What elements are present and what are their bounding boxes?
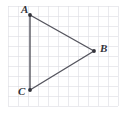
vertex-label-b: B (100, 43, 107, 54)
vertex-label-c: C (18, 86, 25, 97)
vertex-point-a (28, 13, 32, 17)
vertex-label-a: A (21, 4, 28, 15)
triangle-edge-ab (30, 15, 94, 51)
geometry-figure: A B C (0, 0, 126, 115)
figure-canvas (0, 0, 126, 115)
vertex-point-c (28, 88, 32, 92)
vertex-point-b (92, 49, 96, 53)
triangle-edge-bc (30, 51, 94, 90)
